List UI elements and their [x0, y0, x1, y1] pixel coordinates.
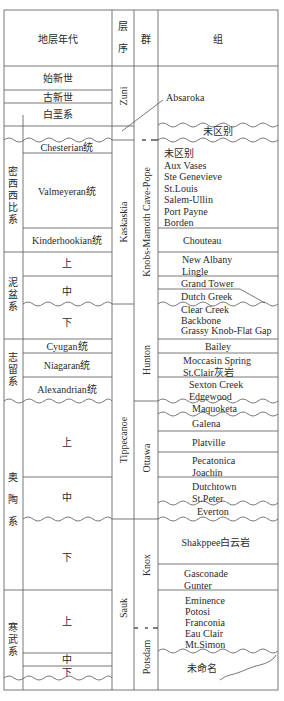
sequence-kaskaskia: Kaskaskia — [118, 201, 129, 242]
header-formation: 组 — [213, 34, 223, 45]
group-knox: Knox — [141, 554, 152, 576]
series-ord-middle: 中 — [62, 492, 72, 503]
group-potsdam: Potsdam — [141, 640, 152, 674]
series-ord-lower: 下 — [62, 552, 72, 563]
system-eocene: 始新世 — [43, 73, 73, 84]
header-group: 群 — [141, 34, 151, 45]
formation-platville: Platville — [192, 437, 225, 448]
formation-dutchtown: Dutchtown St.Peter — [192, 481, 236, 504]
system-paleocene: 古新世 — [43, 92, 73, 103]
series-niagaran: Niagaran统 — [44, 360, 91, 371]
series-dev-lower: 下 — [62, 317, 72, 328]
header-age: 地层年代 — [38, 34, 78, 45]
series-dev-middle: 中 — [62, 286, 72, 297]
formation-dutch-greek: Dutch Greek — [181, 291, 232, 302]
formation-gasconade: Gasconade Gunter — [184, 568, 228, 591]
formation-chouteau: Chouteau — [183, 235, 221, 246]
series-kinderhookian: Kinderhookian统 — [32, 235, 102, 246]
series-chesterian: Chesterian统 — [41, 142, 94, 153]
system-ordovician: 奥陶系 — [7, 467, 19, 533]
formation-clear-creek: Clear Creek Backbone Grassy Knob-Flat Ga… — [181, 305, 272, 337]
series-dev-upper: 上 — [62, 258, 72, 269]
formation-shakopee: Shakppee白云岩 — [182, 537, 251, 548]
formation-bailey: Bailey — [205, 341, 231, 352]
header-sequence: 层序 — [117, 16, 129, 60]
series-alexandrian: Alexandrian统 — [37, 384, 96, 395]
system-silurian: 志留系 — [7, 352, 19, 388]
formation-eminence: Eminence Potosi Franconia Eau Clair Mt.S… — [185, 595, 225, 650]
sequence-sauk: Sauk — [118, 598, 129, 618]
formation-absaroka: Absaroka — [166, 92, 204, 103]
formation-undiff-top: 未区别 — [203, 126, 233, 137]
formation-unnamed: 未命名 — [187, 663, 217, 674]
series-cam-lower: 下 — [62, 667, 72, 678]
system-cretaceous: 白垩系 — [43, 109, 73, 120]
formation-sexton: Sexton Creek Edgewood — [189, 379, 243, 402]
group-knobs-mamoth-cave-pope: Knobs-Mamoth Cave-Pope — [141, 167, 152, 277]
system-devonian: 泥盆系 — [7, 277, 19, 313]
system-mississippian: 密西西比系 — [7, 166, 19, 226]
formation-galena: Galena — [192, 418, 220, 429]
series-cyugan: Cyugan统 — [46, 341, 87, 352]
formation-new-albany: New Albany Lingle — [182, 254, 232, 277]
formation-pecatonica: Pecatonica Joachin — [192, 455, 235, 478]
formation-chester-block: 未区别 Aux Vases Ste Genevieve St.Louis Sal… — [164, 148, 222, 229]
sequence-tippecanoe: Tippecanoe — [118, 417, 129, 463]
group-hunton: Hunton — [141, 345, 152, 375]
series-ord-upper: 上 — [62, 437, 72, 448]
series-valmeyeran: Valmeyeran统 — [38, 186, 96, 197]
series-cam-middle: 中 — [62, 654, 72, 665]
formation-moccasin: Moccasin Spring St.Clair灰岩 — [183, 355, 251, 378]
formation-maquoketa: Maquoketa — [192, 403, 237, 414]
formation-everton: Everton — [197, 506, 229, 517]
sequence-zuni: Zuni — [118, 87, 129, 106]
formation-grand-tower: Grand Tower — [181, 278, 234, 289]
system-cambrian: 寒武系 — [7, 622, 19, 658]
group-ottawa: Ottawa — [141, 444, 152, 473]
series-cam-upper: 上 — [62, 616, 72, 627]
